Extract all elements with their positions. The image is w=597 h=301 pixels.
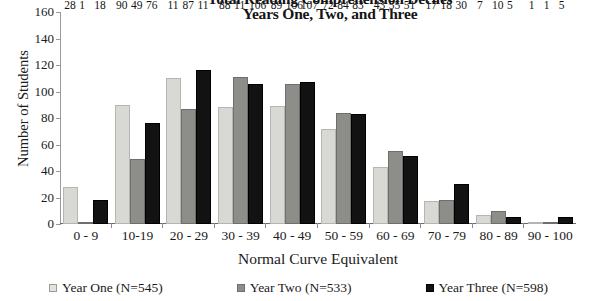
bar-value-label: 88 bbox=[219, 0, 231, 11]
bar-slot: 5 bbox=[506, 12, 521, 224]
bar-slot: 106 bbox=[285, 12, 300, 224]
bar[interactable]: 10 bbox=[491, 211, 506, 224]
bar[interactable]: 18 bbox=[439, 200, 454, 224]
bar[interactable]: 49 bbox=[130, 159, 145, 224]
y-axis-label: Number of Students bbox=[15, 34, 32, 184]
bar[interactable]: 5 bbox=[558, 217, 573, 224]
bar-slot: 5 bbox=[558, 12, 573, 224]
bar[interactable]: 28 bbox=[63, 187, 78, 224]
bar[interactable]: 18 bbox=[93, 200, 108, 224]
legend-label: Year One (N=545) bbox=[62, 280, 163, 296]
bar-value-label: 18 bbox=[440, 0, 452, 11]
bar-value-label: 107 bbox=[301, 0, 318, 11]
x-tick-label: 60 - 69 bbox=[370, 228, 422, 246]
y-tick-label: 160 bbox=[16, 5, 54, 18]
y-tick-label: 60 bbox=[16, 138, 54, 151]
bar-value-label: 7 bbox=[477, 0, 483, 11]
bar-value-label: 87 bbox=[182, 0, 194, 11]
bar-value-label: 55 bbox=[389, 0, 401, 11]
bar-slot: 89 bbox=[270, 12, 285, 224]
bar-group: 89106107 bbox=[266, 12, 318, 224]
chart-legend: Year One (N=545)Year Two (N=533)Year Thr… bbox=[0, 278, 597, 298]
y-tick-label: 40 bbox=[16, 164, 54, 177]
bar-slot: 1 bbox=[78, 12, 93, 224]
bar-slot: 106 bbox=[248, 12, 263, 224]
bar-group: 728483 bbox=[318, 12, 370, 224]
bar[interactable]: 51 bbox=[403, 156, 418, 224]
bar[interactable]: 106 bbox=[248, 84, 263, 224]
legend-item[interactable]: Year One (N=545) bbox=[49, 280, 163, 296]
bar-group: 28118 bbox=[60, 12, 112, 224]
bar-slot: 51 bbox=[403, 12, 418, 224]
bar-group: 435551 bbox=[370, 12, 422, 224]
legend-item[interactable]: Year Two (N=533) bbox=[237, 280, 352, 296]
bar[interactable]: 11 bbox=[166, 78, 181, 224]
bar-value-label: 76 bbox=[146, 0, 158, 11]
bar[interactable]: 11 bbox=[233, 77, 248, 224]
bar-slot: 7 bbox=[476, 12, 491, 224]
bar-value-label: 89 bbox=[271, 0, 283, 11]
legend-item[interactable]: Year Three (N=598) bbox=[426, 280, 548, 296]
bar-slot: 72 bbox=[321, 12, 336, 224]
bar[interactable]: 107 bbox=[300, 82, 315, 224]
bar-slot: 76 bbox=[145, 12, 160, 224]
bar-group: 904976 bbox=[112, 12, 164, 224]
bar-value-label: 106 bbox=[249, 0, 266, 11]
bar-value-label: 83 bbox=[352, 0, 364, 11]
bar[interactable]: 84 bbox=[336, 113, 351, 224]
bar-slot: 1 bbox=[543, 12, 558, 224]
x-tick-label: 90 - 100 bbox=[524, 228, 576, 246]
bar[interactable]: 90 bbox=[115, 105, 130, 224]
legend-label: Year Three (N=598) bbox=[439, 280, 548, 296]
bar[interactable]: 5 bbox=[506, 217, 521, 224]
x-tick-label: 10-19 bbox=[112, 228, 164, 246]
x-tick-label: 70 - 79 bbox=[421, 228, 473, 246]
x-tick-label: 20 - 29 bbox=[163, 228, 215, 246]
bar-group: 115 bbox=[524, 12, 576, 224]
bar[interactable]: 7 bbox=[476, 215, 491, 224]
bar-value-label: 11 bbox=[234, 0, 245, 11]
bar-value-label: 17 bbox=[425, 0, 437, 11]
bar-value-label: 72 bbox=[322, 0, 334, 11]
bar-group: 8811106 bbox=[215, 12, 267, 224]
legend-swatch bbox=[49, 284, 57, 292]
bar[interactable]: 1 bbox=[78, 222, 93, 225]
bar[interactable]: 87 bbox=[181, 109, 196, 224]
bar-slot: 11 bbox=[166, 12, 181, 224]
bar[interactable]: 30 bbox=[454, 184, 469, 224]
chart-container: Total Reading Comprehension Deciles Year… bbox=[0, 0, 597, 301]
x-tick-label: 40 - 49 bbox=[266, 228, 318, 246]
bar[interactable]: 83 bbox=[351, 114, 366, 224]
bar-slot: 43 bbox=[373, 12, 388, 224]
bar-value-label: 10 bbox=[492, 0, 504, 11]
bar-group: 171830 bbox=[421, 12, 473, 224]
bar-value-label: 5 bbox=[507, 0, 513, 11]
bar-slot: 18 bbox=[439, 12, 454, 224]
bar[interactable]: 17 bbox=[424, 201, 439, 224]
bar[interactable]: 55 bbox=[388, 151, 403, 224]
x-tick-label: 80 - 89 bbox=[473, 228, 525, 246]
bar-slot: 88 bbox=[218, 12, 233, 224]
bar[interactable]: 72 bbox=[321, 129, 336, 224]
bar[interactable]: 1 bbox=[543, 222, 558, 225]
legend-label: Year Two (N=533) bbox=[250, 280, 352, 296]
bar[interactable]: 88 bbox=[218, 107, 233, 224]
bar[interactable]: 106 bbox=[285, 84, 300, 224]
bar-slot: 18 bbox=[93, 12, 108, 224]
bar-slot: 87 bbox=[181, 12, 196, 224]
bar[interactable]: 1 bbox=[528, 222, 543, 225]
bar-slot: 107 bbox=[300, 12, 315, 224]
y-tick-label: 100 bbox=[16, 85, 54, 98]
bar-slot: 11 bbox=[196, 12, 211, 224]
bar-slot: 84 bbox=[336, 12, 351, 224]
bar-value-label: 5 bbox=[559, 0, 565, 11]
bar[interactable]: 11 bbox=[196, 70, 211, 224]
bar[interactable]: 76 bbox=[145, 123, 160, 224]
bar[interactable]: 89 bbox=[270, 106, 285, 224]
bar-slot: 30 bbox=[454, 12, 469, 224]
x-axis-ticks: 0 - 910-1920 - 2930 - 3940 - 4950 - 5960… bbox=[60, 228, 576, 246]
bar-slot: 49 bbox=[130, 12, 145, 224]
x-tick-label: 30 - 39 bbox=[215, 228, 267, 246]
bar[interactable]: 43 bbox=[373, 167, 388, 224]
bar-group: 118711 bbox=[163, 12, 215, 224]
